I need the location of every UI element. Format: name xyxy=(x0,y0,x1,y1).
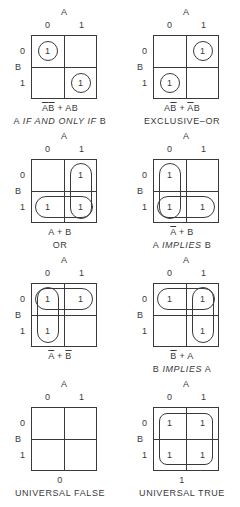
row-variable-label: B xyxy=(15,187,21,196)
col-variable-label: A xyxy=(61,8,67,17)
function-name: EXCLUSIVE–OR xyxy=(122,116,240,126)
grid-divider-horizontal xyxy=(32,439,96,440)
kmap-panel-true: A01B0111111UNIVERSAL TRUE xyxy=(122,374,240,499)
grid-divider-horizontal xyxy=(154,67,218,68)
col-variable-label: A xyxy=(61,256,67,265)
row-value-label: 0 xyxy=(142,171,147,180)
function-name: UNIVERSAL TRUE xyxy=(122,488,240,498)
row-value-label: 1 xyxy=(142,203,147,212)
kmap-grid: 1111 xyxy=(153,407,219,471)
boolean-expression: AB + AB xyxy=(122,103,240,113)
kmap-grid: 111 xyxy=(31,283,97,347)
kmap-panel-a-implies-b: A01B01111A + BA IMPLIES B xyxy=(122,126,240,251)
col-value-label: 0 xyxy=(167,393,172,402)
boolean-expression: AB + AB xyxy=(0,103,120,113)
function-name: A IF AND ONLY IF B xyxy=(0,116,120,126)
grouping-loop xyxy=(159,413,213,465)
row-variable-label: B xyxy=(15,63,21,72)
boolean-expression: B + A xyxy=(122,351,240,361)
kmap-grid xyxy=(31,407,97,471)
row-value-label: 0 xyxy=(20,47,25,56)
col-value-label: 1 xyxy=(79,145,84,154)
grouping-loop xyxy=(157,196,215,218)
grouping-loop xyxy=(192,287,214,343)
col-variable-label: A xyxy=(183,132,189,141)
kmap-panel-iff: A01B0111AB + ABA IF AND ONLY IF B xyxy=(0,2,120,127)
row-variable-label: B xyxy=(137,187,143,196)
col-value-label: 0 xyxy=(45,393,50,402)
col-value-label: 0 xyxy=(167,145,172,154)
row-value-label: 1 xyxy=(142,79,147,88)
row-variable-label: B xyxy=(15,435,21,444)
row-value-label: 1 xyxy=(20,203,25,212)
row-variable-label: B xyxy=(137,311,143,320)
kmap-grid: 11 xyxy=(31,35,97,99)
grouping-loop xyxy=(71,73,91,93)
grouping-loop xyxy=(35,288,93,310)
row-value-label: 1 xyxy=(142,327,147,336)
kmap-panel-or: A01B01111A + BOR xyxy=(0,126,120,251)
row-value-label: 0 xyxy=(20,419,25,428)
kmap-grid: 11 xyxy=(153,35,219,99)
row-value-label: 1 xyxy=(20,451,25,460)
col-value-label: 1 xyxy=(201,269,206,278)
col-value-label: 1 xyxy=(201,21,206,30)
row-variable-label: B xyxy=(137,435,143,444)
col-value-label: 1 xyxy=(79,393,84,402)
row-value-label: 0 xyxy=(20,171,25,180)
kmap-grid: 111 xyxy=(153,159,219,223)
row-value-label: 0 xyxy=(142,419,147,428)
kmap-panel-xor: A01B0111AB + ABEXCLUSIVE–OR xyxy=(122,2,240,127)
boolean-expression: 1 xyxy=(122,475,240,485)
col-value-label: 0 xyxy=(45,145,50,154)
boolean-expression: A + B xyxy=(0,351,120,361)
row-value-label: 1 xyxy=(142,451,147,460)
function-name: UNIVERSAL FALSE xyxy=(0,488,120,498)
kmap-panel-nand: A01B01111A + B xyxy=(0,250,120,375)
col-value-label: 1 xyxy=(79,21,84,30)
row-value-label: 0 xyxy=(20,295,25,304)
kmap-panel-false: A01B010UNIVERSAL FALSE xyxy=(0,374,120,499)
grouping-loop xyxy=(38,41,58,61)
row-value-label: 1 xyxy=(20,79,25,88)
kmap-grid: 111 xyxy=(153,283,219,347)
col-value-label: 1 xyxy=(201,145,206,154)
boolean-expression: A + B xyxy=(122,227,240,237)
function-name: B IMPLIES A xyxy=(122,364,240,374)
row-value-label: 1 xyxy=(20,327,25,336)
col-variable-label: A xyxy=(183,8,189,17)
kmap-grid: 111 xyxy=(31,159,97,223)
col-value-label: 0 xyxy=(45,269,50,278)
kmap-panel-b-implies-a: A01B01111B + AB IMPLIES A xyxy=(122,250,240,375)
row-variable-label: B xyxy=(15,311,21,320)
boolean-expression: A + B xyxy=(0,227,120,237)
col-value-label: 0 xyxy=(167,21,172,30)
col-variable-label: A xyxy=(61,380,67,389)
grid-divider-horizontal xyxy=(32,67,96,68)
function-name: OR xyxy=(0,240,120,250)
col-value-label: 1 xyxy=(201,393,206,402)
col-variable-label: A xyxy=(183,380,189,389)
boolean-expression: 0 xyxy=(0,475,120,485)
col-variable-label: A xyxy=(61,132,67,141)
function-name: A IMPLIES B xyxy=(122,240,240,250)
row-value-label: 0 xyxy=(142,295,147,304)
row-variable-label: B xyxy=(137,63,143,72)
grouping-loop xyxy=(35,196,93,218)
col-variable-label: A xyxy=(183,256,189,265)
col-value-label: 0 xyxy=(45,21,50,30)
col-value-label: 1 xyxy=(79,269,84,278)
row-value-label: 0 xyxy=(142,47,147,56)
col-value-label: 0 xyxy=(167,269,172,278)
grouping-loop xyxy=(193,41,213,61)
grouping-loop xyxy=(160,73,180,93)
